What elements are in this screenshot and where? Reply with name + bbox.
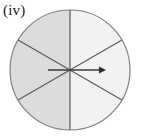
sector-circle-diagram [0,0,141,138]
figure-container: (iv) [0,0,141,138]
